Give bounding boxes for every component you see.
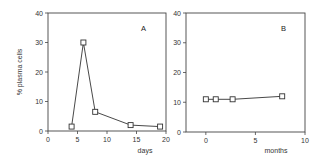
x-axis-label: months <box>265 147 288 154</box>
y-tick-label: 40 <box>35 10 43 17</box>
data-point-marker <box>93 109 98 114</box>
x-tick-label: 10 <box>103 136 111 143</box>
y-tick-label: 20 <box>173 69 181 76</box>
panel-b: 0102030400510Bmonths <box>173 10 309 155</box>
y-tick-label: 20 <box>35 69 43 76</box>
y-axis-label: % plasma cells <box>16 48 24 95</box>
plot-frame <box>186 13 305 132</box>
data-point-marker <box>213 97 218 102</box>
x-tick-label: 20 <box>162 136 170 143</box>
y-tick-label: 30 <box>173 39 181 46</box>
data-point-marker <box>280 94 285 99</box>
x-tick-label: 5 <box>76 136 80 143</box>
data-point-marker <box>128 123 133 128</box>
x-tick-label: 5 <box>253 137 257 144</box>
y-tick-label: 10 <box>173 99 181 106</box>
x-tick-label: 0 <box>204 137 208 144</box>
data-point-marker <box>158 124 163 129</box>
panel-a: 01020304005101520Adays% plasma cells <box>16 10 170 156</box>
plot-frame <box>48 13 166 131</box>
chart-figure: 01020304005101520Adays% plasma cells 010… <box>0 0 322 162</box>
y-tick-label: 0 <box>39 128 43 135</box>
x-tick-label: 10 <box>301 137 309 144</box>
data-point-marker <box>69 124 74 129</box>
y-tick-label: 40 <box>173 10 181 17</box>
y-tick-label: 30 <box>35 39 43 46</box>
x-tick-label: 15 <box>133 136 141 143</box>
x-axis-label: days <box>138 147 153 155</box>
panel-label: B <box>281 24 286 33</box>
y-tick-label: 0 <box>177 129 181 136</box>
y-tick-label: 10 <box>35 98 43 105</box>
panel-label: A <box>141 24 146 33</box>
data-point-marker <box>203 97 208 102</box>
data-point-marker <box>81 40 86 45</box>
series-line <box>72 43 161 127</box>
data-point-marker <box>230 97 235 102</box>
x-tick-label: 0 <box>46 136 50 143</box>
